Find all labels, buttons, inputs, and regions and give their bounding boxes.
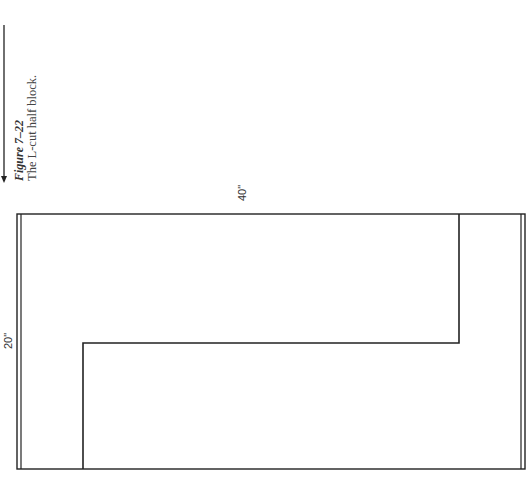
diagram-canvas xyxy=(0,0,527,503)
l-cut-line xyxy=(83,214,459,469)
figure-caption: The L-cut half block. xyxy=(25,75,40,181)
height-dimension-label: 20" xyxy=(2,333,14,349)
width-dimension-label: 40" xyxy=(236,185,248,201)
arrow-icon xyxy=(1,25,7,183)
outer-block-frame xyxy=(17,214,525,469)
